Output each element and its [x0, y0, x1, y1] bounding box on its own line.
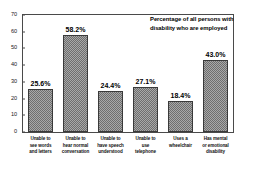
chart-title-line: disability who are employed — [150, 24, 250, 33]
x-axis-label: Has mentalor emotionaldisability — [198, 136, 233, 156]
bar — [98, 91, 123, 132]
bar — [63, 35, 88, 132]
y-tick-label: 20 — [11, 96, 17, 102]
x-axis-labels: Unable tosee wordsand lettersUnable tohe… — [23, 136, 233, 168]
bar-value-label: 25.6% — [31, 80, 51, 87]
x-axis-label-line: telephone — [128, 149, 163, 156]
bar-value-label: 24.4% — [101, 82, 121, 89]
y-tick-mark — [22, 81, 25, 82]
x-axis-label-line: disability — [198, 149, 233, 156]
y-tick-mark — [22, 65, 25, 66]
y-tick-mark — [22, 132, 25, 133]
y-tick-label: 50 — [11, 46, 17, 52]
chart-title: Percentage of all persons withdisability… — [150, 15, 250, 33]
y-tick-mark — [22, 31, 25, 32]
x-axis-label-line: hear normal — [58, 143, 93, 150]
x-axis-label: Unable tousetelephone — [128, 136, 163, 156]
x-axis-label-line: have speech — [93, 143, 128, 150]
x-axis-label: Unable tohave speechunderstood — [93, 136, 128, 156]
bar — [203, 60, 228, 132]
x-axis-label-line: Unable to — [23, 136, 58, 143]
bar-value-label: 18.4% — [171, 92, 191, 99]
y-tick-label: 40 — [11, 62, 17, 68]
x-axis-label-line: use — [128, 143, 163, 150]
bar-value-label: 27.1% — [136, 78, 156, 85]
x-axis-label-line: wheelchair — [163, 143, 198, 150]
x-axis-label-line: conversation — [58, 149, 93, 156]
y-tick-mark — [22, 115, 25, 116]
x-axis-label-line: understood — [93, 149, 128, 156]
bar-value-label: 58.2% — [66, 26, 86, 33]
x-axis-label: Uses awheelchair — [163, 136, 198, 149]
y-tick-label: 0 — [14, 129, 17, 135]
y-tick-mark — [22, 48, 25, 49]
bar — [133, 87, 158, 132]
x-axis-label-line: and letters — [23, 149, 58, 156]
bar — [28, 89, 53, 132]
x-axis-label: Unable tosee wordsand letters — [23, 136, 58, 156]
x-axis-label-line: Uses a — [163, 136, 198, 143]
chart-title-line: Percentage of all persons with — [150, 15, 250, 24]
bar-slot: 25.6% — [28, 15, 53, 132]
x-axis-label: Unable tohear normalconversation — [58, 136, 93, 156]
x-axis-label-line: Unable to — [93, 136, 128, 143]
bar-slot: 24.4% — [98, 15, 123, 132]
y-tick-label: 60 — [11, 29, 17, 35]
y-tick-mark — [22, 98, 25, 99]
y-tick-mark — [22, 15, 25, 16]
bar — [168, 101, 193, 132]
x-axis-label-line: Unable to — [128, 136, 163, 143]
y-tick-label: 10 — [11, 112, 17, 118]
x-axis-label-line: see words — [23, 143, 58, 150]
x-axis-label-line: or emotional — [198, 143, 233, 150]
x-axis-label-line: Has mental — [198, 136, 233, 143]
y-tick-label: 30 — [11, 79, 17, 85]
y-axis: 010203040506070 — [0, 14, 20, 133]
x-axis-label-line: Unable to — [58, 136, 93, 143]
y-tick-label: 70 — [11, 12, 17, 18]
bar-chart: 010203040506070 25.6%58.2%24.4%27.1%18.4… — [0, 0, 256, 169]
bar-slot: 58.2% — [63, 15, 88, 132]
bar-value-label: 43.0% — [206, 51, 226, 58]
